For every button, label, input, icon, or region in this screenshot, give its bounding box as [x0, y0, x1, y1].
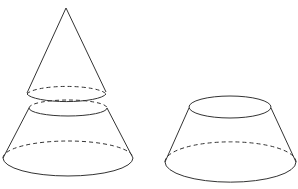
geometry-diagram	[0, 0, 298, 189]
small-cone-base-front	[27, 94, 106, 102]
frustum-top-face	[189, 96, 271, 118]
small-cone-base-back	[27, 86, 106, 94]
small-cone-right-edge	[66, 8, 106, 92]
lower-frustum	[3, 100, 133, 176]
lower-frustum-base-back	[3, 141, 133, 158]
frustum-base-back	[165, 142, 296, 162]
frustum	[165, 96, 296, 182]
small-cone	[27, 8, 106, 102]
lower-frustum-right-edge	[107, 108, 133, 158]
frustum-left-edge	[165, 108, 189, 162]
lower-frustum-left-edge	[3, 108, 29, 158]
small-cone-left-edge	[27, 8, 66, 93]
frustum-right-edge	[271, 108, 296, 162]
lower-frustum-top-front	[29, 108, 107, 116]
frustum-base-front	[165, 162, 296, 182]
lower-frustum-base-front	[3, 158, 133, 176]
